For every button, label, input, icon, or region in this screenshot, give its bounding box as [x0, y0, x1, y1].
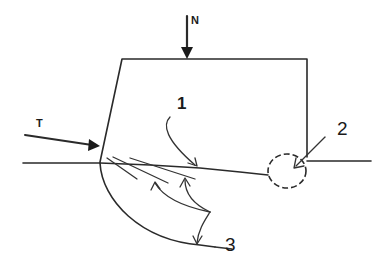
label-3: 3 [225, 234, 236, 256]
callout-2-leader [294, 137, 325, 168]
crack-main [100, 163, 268, 175]
diagram-canvas [0, 0, 385, 269]
callout-3-leaders [151, 178, 232, 249]
callout-1-leader [166, 117, 197, 166]
contact-zone-circle [268, 154, 306, 188]
crack-line-3 [130, 158, 195, 179]
label-T: T [36, 117, 43, 129]
tangential-force-arrow [25, 135, 100, 151]
block-outline [100, 59, 307, 162]
label-2: 2 [337, 118, 348, 140]
label-N: N [191, 14, 199, 26]
label-1: 1 [177, 94, 186, 114]
